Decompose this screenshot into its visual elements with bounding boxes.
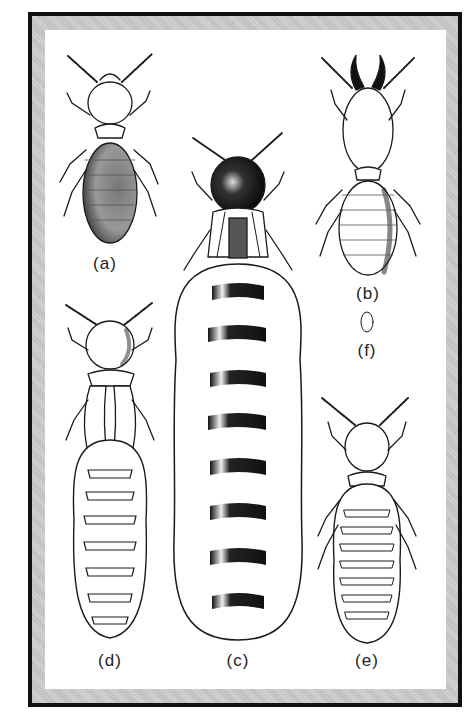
label-b: (b)	[356, 284, 380, 304]
label-e: (e)	[355, 651, 379, 671]
label-d: (d)	[98, 651, 122, 671]
termite-illustration	[0, 0, 469, 715]
egg-f	[361, 312, 373, 332]
worker-termite-a	[60, 54, 158, 243]
label-c: (c)	[227, 651, 250, 671]
nymph-termite-e	[318, 398, 416, 643]
soldier-termite-b	[316, 55, 420, 275]
label-f: (f)	[357, 341, 376, 361]
queen-termite-c	[174, 133, 302, 640]
nymph-termite-d	[66, 303, 154, 638]
label-a: (a)	[93, 254, 117, 274]
